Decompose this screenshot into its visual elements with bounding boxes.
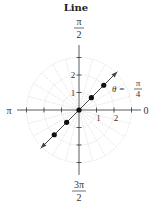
angle-label-3pi-over-2-num: 3π xyxy=(74,179,84,190)
angle-label-pi-over-2-den: 2 xyxy=(77,29,82,40)
radial-label-2-vertical: 2 xyxy=(71,70,76,80)
grid-radial-line xyxy=(28,110,79,124)
equation-label-lhs: θ = xyxy=(112,84,125,94)
grid-radial-line xyxy=(28,96,79,110)
data-point-r0 xyxy=(76,107,81,112)
polar-plot: π23π2π01212θ =π4 xyxy=(0,0,152,202)
angle-label-3pi-over-2-den: 2 xyxy=(77,192,82,202)
grid-radial-line xyxy=(79,110,105,155)
grid-radial-line xyxy=(79,59,93,110)
data-point-r2 xyxy=(101,83,106,88)
data-point-r1 xyxy=(89,95,94,100)
grid-radial-line xyxy=(79,96,130,110)
angle-label-pi-over-2-num: π xyxy=(76,16,81,27)
radial-label-1-horizontal: 1 xyxy=(96,113,101,123)
grid-radial-line xyxy=(65,110,79,161)
grid-radial-line xyxy=(79,110,130,124)
angle-label-pi: π xyxy=(6,105,11,116)
grid-radial-line xyxy=(65,59,79,110)
data-point-r-2 xyxy=(52,132,57,137)
equation-label-num: π xyxy=(136,78,141,88)
radial-label-1-vertical: 1 xyxy=(71,88,76,98)
data-point-r-1 xyxy=(64,120,69,125)
angle-label-0: 0 xyxy=(144,105,149,116)
radial-label-2-horizontal: 2 xyxy=(114,113,119,123)
equation-label-den: 4 xyxy=(136,89,141,99)
grid-radial-line xyxy=(79,110,93,161)
